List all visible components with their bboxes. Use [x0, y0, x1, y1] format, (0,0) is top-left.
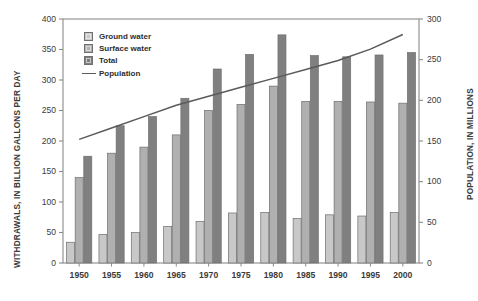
bar: [116, 126, 124, 263]
bar: [108, 153, 116, 263]
bar: [164, 226, 172, 263]
y-tick-left-400: 400: [30, 14, 56, 24]
bar: [99, 234, 107, 263]
bar: [358, 216, 366, 263]
bar: [228, 213, 236, 263]
bar: [269, 86, 277, 263]
bar: [75, 178, 83, 263]
bar: [390, 212, 398, 263]
bar: [278, 35, 286, 263]
bar: [213, 69, 221, 263]
bar: [67, 242, 75, 263]
y-tick-left-300: 300: [30, 75, 56, 85]
y-tick-right-150: 150: [427, 136, 453, 146]
y-tick-right-50: 50: [427, 217, 453, 227]
y-tick-left-200: 200: [30, 136, 56, 146]
y-tick-right-0: 0: [427, 258, 453, 268]
bar: [196, 222, 204, 263]
bar: [181, 98, 189, 263]
bar: [366, 102, 374, 263]
bar: [131, 233, 139, 264]
bar: [399, 103, 407, 263]
bar: [149, 117, 157, 263]
x-tick-2000: 2000: [383, 270, 423, 280]
bar: [343, 57, 351, 263]
bar: [325, 215, 333, 263]
bar: [237, 104, 245, 263]
bar: [334, 101, 342, 263]
plot-area: [0, 0, 478, 301]
chart-figure: WITHDRAWALS, IN BILLION GALLONS PER DAY …: [0, 0, 478, 301]
y-tick-left-50: 50: [30, 227, 56, 237]
y-tick-left-250: 250: [30, 105, 56, 115]
bar: [293, 218, 301, 263]
bar: [302, 101, 310, 263]
bar: [261, 212, 269, 263]
y-tick-right-300: 300: [427, 14, 453, 24]
bar: [84, 156, 92, 263]
y-tick-left-350: 350: [30, 44, 56, 54]
y-tick-left-100: 100: [30, 197, 56, 207]
y-tick-left-150: 150: [30, 166, 56, 176]
bar: [375, 55, 383, 263]
bar: [205, 111, 213, 264]
y-tick-left-0: 0: [30, 258, 56, 268]
y-tick-right-250: 250: [427, 54, 453, 64]
y-tick-right-200: 200: [427, 95, 453, 105]
bar: [407, 53, 415, 263]
bar: [140, 147, 148, 263]
bar: [172, 135, 180, 263]
y-tick-right-100: 100: [427, 176, 453, 186]
bar: [310, 56, 318, 263]
